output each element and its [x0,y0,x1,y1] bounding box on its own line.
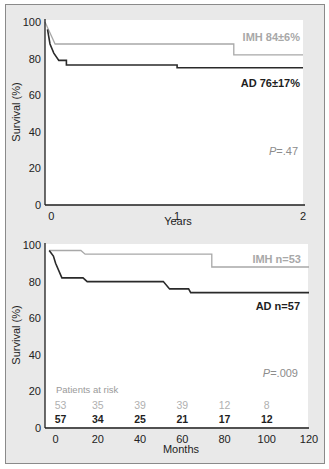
risk-count-ad: 21 [176,413,188,425]
x-tick-label: 20 [92,433,104,445]
bottom-x-axis-label: Months [163,443,200,455]
y-tick-label: 60 [29,312,41,324]
y-tick-label: 100 [23,16,41,28]
top-y-axis-ticks: 020406080100 [23,16,41,211]
risk-count-imh: 53 [55,399,67,411]
patients-at-risk-title: Patients at risk [56,384,119,395]
y-tick-label: 80 [29,276,41,288]
bottom-p-value: P=.009 [263,367,298,379]
x-tick-label: 80 [218,433,230,445]
x-tick-label: 40 [134,433,146,445]
risk-count-imh: 39 [176,399,188,411]
top-legend-imh: IMH 84±6% [243,31,301,43]
bottom-y-axis-label: Survival (%) [10,305,22,364]
y-tick-label: 80 [29,53,41,65]
y-tick-label: 20 [29,162,41,174]
y-tick-label: 0 [35,199,41,211]
risk-count-imh: 35 [92,399,104,411]
x-tick-label: 100 [258,433,276,445]
top-x-axis-label: Years [164,215,192,227]
bottom-legend-ad: AD n=57 [256,300,300,312]
risk-count-imh: 39 [134,399,146,411]
bottom-legend-imh: IMH n=53 [252,253,301,265]
bottom-y-axis-ticks: 020406080100 [23,239,41,434]
risk-count-ad: 57 [55,413,67,425]
y-tick-label: 40 [29,349,41,361]
x-tick-label: 0 [48,210,54,222]
x-tick-label: 2 [300,210,306,222]
y-tick-label: 40 [29,126,41,138]
y-tick-label: 20 [29,385,41,397]
x-tick-label: 120 [300,433,318,445]
y-tick-label: 0 [35,422,41,434]
bottom-survival-chart: 020406080100 020406080100120 Survival (%… [10,239,318,455]
risk-count-ad: 25 [134,413,146,425]
risk-count-ad: 34 [92,413,104,425]
survival-figure: 020406080100 012 Survival (%) Years IMH … [0,0,329,469]
top-legend-ad: AD 76±17% [241,77,300,89]
top-plot-area [45,20,303,205]
y-tick-label: 100 [23,239,41,251]
risk-count-ad: 12 [261,413,273,425]
risk-count-imh: 12 [219,399,231,411]
risk-count-ad: 17 [219,413,231,425]
y-tick-label: 60 [29,89,41,101]
top-y-axis-label: Survival (%) [10,82,22,141]
top-survival-chart: 020406080100 012 Survival (%) Years IMH … [10,16,306,227]
top-p-value: P=.47 [269,145,298,157]
x-tick-label: 0 [52,433,58,445]
risk-count-imh: 8 [264,399,270,411]
